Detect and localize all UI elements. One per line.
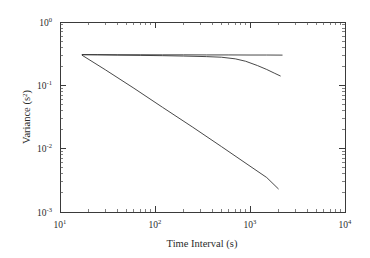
x-tick-label-mantissa: 10 [339,220,349,230]
y-tick-label-mantissa: 10 [39,18,49,28]
y-axis-title-main: Variance (s [21,97,33,144]
y-tick-label-exponent: -2 [47,142,53,149]
x-tick-label-exponent: 2 [158,218,161,225]
variance-vs-time-chart: 101102103104 10010-110-210-3 Time Interv… [0,0,370,258]
y-tick-label-mantissa: 10 [37,81,47,91]
x-tick-label-exponent: 1 [63,218,66,225]
x-tick-label-mantissa: 10 [54,220,64,230]
y-tick-label-mantissa: 10 [37,144,47,154]
y-axis-title-close: ) [21,90,33,94]
y-tick-label-mantissa: 10 [37,208,47,218]
y-tick-label-exponent: -3 [47,206,53,213]
y-axis-title-text: Variance (s2) [21,90,34,144]
y-axis-title: Variance (s2) [21,90,34,144]
y-tick-label-exponent: -1 [47,79,53,86]
x-axis-title-text: Time Interval (s) [167,238,238,250]
x-axis-title: Time Interval (s) [167,238,238,250]
x-tick-label-mantissa: 10 [244,220,254,230]
x-tick-label-mantissa: 10 [149,220,159,230]
figure-container: 101102103104 10010-110-210-3 Time Interv… [0,0,370,258]
